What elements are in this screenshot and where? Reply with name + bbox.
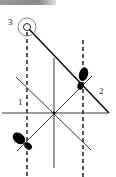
footprint-right bbox=[75, 66, 90, 91]
label-two: 2 bbox=[99, 87, 104, 96]
label-one: 1 bbox=[18, 98, 23, 107]
footprint-left bbox=[10, 130, 34, 153]
center-point bbox=[53, 112, 56, 115]
start-circle-inner bbox=[24, 24, 31, 31]
label-three: 3 bbox=[8, 18, 13, 27]
